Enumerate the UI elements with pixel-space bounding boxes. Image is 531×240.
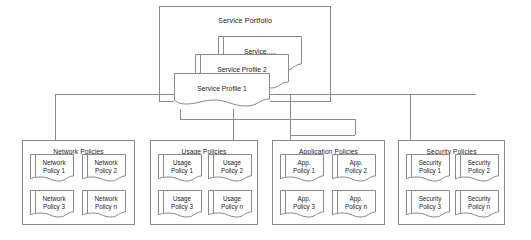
policy-doc[interactable]: SecurityPolicy 3 (406, 190, 450, 220)
policy-doc-line2: Policy 2 (345, 167, 367, 175)
policy-doc-line2: Policy 1 (419, 167, 441, 175)
policy-doc[interactable]: NetworkPolicy n (82, 190, 126, 220)
service-profile-1-label: Service Profile 1 (174, 73, 270, 109)
policy-doc-line2: Policy n (345, 203, 367, 211)
policy-doc-line1: App. (350, 195, 363, 203)
policy-doc[interactable]: UsagePolicy 3 (158, 190, 202, 220)
policy-doc-line2: Policy n (468, 203, 490, 211)
policy-doc-line1: Network (94, 159, 117, 167)
service-profile-1-card[interactable]: Service Profile 1 (174, 73, 270, 109)
service-portfolio-diagram: Service Portfolio Service..... Service P… (0, 0, 531, 240)
policy-doc-line1: Usage (223, 159, 241, 167)
policy-doc-line2: Policy n (95, 203, 117, 211)
policy-doc-line1: Security (419, 195, 442, 203)
policy-doc-line2: Policy n (221, 203, 243, 211)
policy-doc-line1: Security (468, 195, 491, 203)
policy-doc-line1: Usage (223, 195, 241, 203)
policy-doc-line2: Policy 1 (293, 167, 315, 175)
policy-doc-line1: Usage (173, 195, 191, 203)
policy-doc[interactable]: SecurityPolicy n (455, 190, 499, 220)
policy-doc-line2: Policy 3 (293, 203, 315, 211)
policy-doc[interactable]: SecurityPolicy 2 (455, 154, 499, 184)
policy-doc-line2: Policy 2 (221, 167, 243, 175)
policy-doc[interactable]: App.Policy 3 (280, 190, 324, 220)
policy-doc[interactable]: App.Policy n (332, 190, 376, 220)
policy-doc-line1: Network (42, 159, 65, 167)
policy-doc-line2: Policy 2 (468, 167, 490, 175)
policy-doc[interactable]: NetworkPolicy 1 (30, 154, 74, 184)
policy-doc-line1: App. (298, 159, 311, 167)
policy-doc-line1: App. (350, 159, 363, 167)
policy-doc-line2: Policy 3 (419, 203, 441, 211)
policy-doc-line2: Policy 2 (95, 167, 117, 175)
policy-doc-line1: App. (298, 195, 311, 203)
policy-doc-line1: Security (419, 159, 442, 167)
policy-doc-line2: Policy 3 (171, 203, 193, 211)
policy-doc-line2: Policy 1 (171, 167, 193, 175)
policy-doc-line1: Network (94, 195, 117, 203)
policy-doc[interactable]: NetworkPolicy 3 (30, 190, 74, 220)
service-portfolio-title: Service Portfolio (160, 16, 330, 25)
policy-doc[interactable]: UsagePolicy 2 (208, 154, 252, 184)
policy-doc-line2: Policy 3 (43, 203, 65, 211)
policy-doc[interactable]: UsagePolicy 1 (158, 154, 202, 184)
policy-doc-line2: Policy 1 (43, 167, 65, 175)
policy-doc-line1: Usage (173, 159, 191, 167)
policy-doc[interactable]: SecurityPolicy 1 (406, 154, 450, 184)
policy-doc[interactable]: NetworkPolicy 2 (82, 154, 126, 184)
policy-doc[interactable]: UsagePolicy n (208, 190, 252, 220)
policy-doc-line1: Network (42, 195, 65, 203)
policy-doc[interactable]: App.Policy 1 (280, 154, 324, 184)
policy-doc[interactable]: App.Policy 2 (332, 154, 376, 184)
policy-doc-line1: Security (468, 159, 491, 167)
